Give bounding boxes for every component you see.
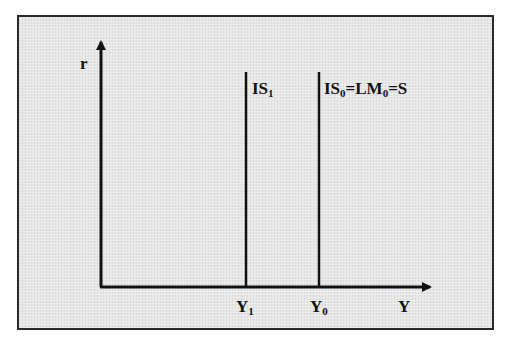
tick-y0: Y0 [310, 298, 328, 315]
tick-y0-sub: 0 [322, 305, 328, 317]
x-axis-label: Y [398, 298, 410, 315]
equals-sign-1: = [346, 79, 356, 98]
is0-lm0-s-label: IS0=LM0=S [324, 80, 407, 97]
tick-y1: Y1 [236, 298, 254, 315]
equals-sign-2: = [388, 79, 398, 98]
s-label: S [398, 79, 407, 98]
tick-y1-base: Y [236, 297, 248, 316]
lm0-label-base: LM [355, 79, 382, 98]
is-lm-diagram [0, 0, 508, 342]
tick-y1-sub: 1 [248, 305, 254, 317]
is1-label-sub: 1 [268, 87, 274, 99]
x-axis-label-text: Y [398, 297, 410, 316]
tick-y0-base: Y [310, 297, 322, 316]
is0-label-base: IS [324, 79, 340, 98]
y-axis-label-text: r [80, 54, 88, 73]
is1-label: IS1 [252, 80, 274, 97]
is1-label-base: IS [252, 79, 268, 98]
y-axis-label: r [80, 55, 88, 72]
